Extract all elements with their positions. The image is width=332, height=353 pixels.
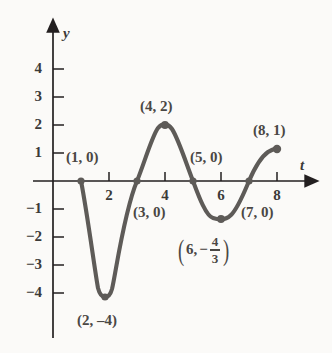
- point-8-1: [273, 145, 281, 153]
- x-tick-label-2: 2: [99, 188, 119, 203]
- y-tick-label-3: 3: [18, 89, 42, 104]
- point-5-0: [189, 177, 196, 184]
- fraction-close-paren: ): [223, 239, 229, 261]
- y-tick-label-neg3: −3: [12, 257, 42, 272]
- point-label-5-0: (5, 0): [190, 150, 223, 165]
- point-label-6-neg-four-thirds: ( 6, − 4 3 ): [176, 235, 231, 265]
- x-tick-label-8: 8: [267, 188, 287, 203]
- y-tick-label-neg1: −1: [12, 201, 42, 216]
- x-tick-label-4: 4: [155, 188, 175, 203]
- y-axis-label: y: [63, 26, 70, 41]
- fraction-numerator: 4: [210, 235, 221, 249]
- y-tick-label-1: 1: [18, 145, 42, 160]
- point-label-3-0: (3, 0): [133, 205, 166, 220]
- point-6-neg-four-thirds: [217, 215, 225, 223]
- y-tick-label-neg2: −2: [12, 229, 42, 244]
- plot-canvas: [0, 0, 332, 353]
- point-4-2: [161, 121, 169, 129]
- fraction-open-paren: (: [178, 239, 184, 261]
- x-axis-label: t: [300, 158, 304, 173]
- fraction-stack: 4 3: [210, 235, 221, 265]
- point-1-0: [77, 177, 84, 184]
- graph-figure: 4 3 2 1 −1 −2 −3 −4 2 4 6 8 y t (1, 0) (…: [0, 0, 332, 353]
- fraction-minus-sign: −: [199, 242, 208, 257]
- point-label-7-0: (7, 0): [241, 205, 274, 220]
- point-label-4-2: (4, 2): [140, 99, 173, 114]
- x-tick-label-6: 6: [211, 188, 231, 203]
- fraction-x-part: 6,: [186, 242, 197, 257]
- point-label-1-0: (1, 0): [66, 150, 99, 165]
- point-7-0: [245, 177, 252, 184]
- point-label-8-1: (8, 1): [253, 123, 286, 138]
- y-tick-label-neg4: −4: [12, 285, 42, 300]
- point-3-0: [133, 177, 140, 184]
- y-tick-label-4: 4: [18, 61, 42, 76]
- point-label-2-neg4: (2, –4): [77, 313, 117, 328]
- fraction-denominator: 3: [210, 251, 221, 265]
- point-2-neg4: [101, 293, 108, 300]
- y-tick-label-2: 2: [18, 117, 42, 132]
